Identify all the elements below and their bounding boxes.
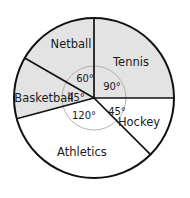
pie-chart-svg: Tennis Hockey Athletics Basketball Netba… (0, 0, 190, 198)
sector-label-netball: Netball (51, 37, 92, 51)
sector-label-athletics: Athletics (57, 145, 107, 159)
angle-label-netball: 60° (76, 73, 94, 84)
angle-label-athletics: 120° (72, 110, 96, 121)
angle-label-tennis: 90° (103, 81, 121, 92)
pie-chart-figure: Tennis Hockey Athletics Basketball Netba… (0, 0, 190, 198)
angle-label-hockey: 45° (108, 106, 126, 117)
sector-label-basketball: Basketball (14, 91, 74, 105)
angle-label-basketball: 45° (67, 92, 85, 103)
sector-label-tennis: Tennis (112, 55, 149, 69)
